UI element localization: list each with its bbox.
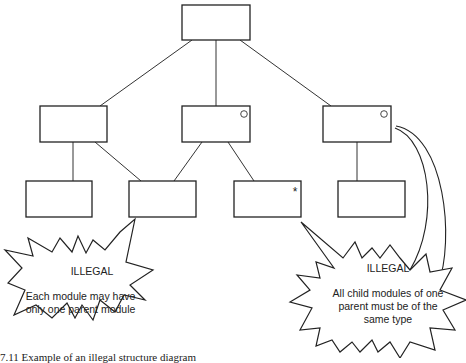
module-bottom-2 bbox=[129, 181, 196, 217]
callout-right-line1: All child modules of one bbox=[322, 287, 454, 300]
module-bottom-1 bbox=[26, 181, 92, 217]
callout-left-line1: Each module may have bbox=[18, 290, 143, 303]
callout-left-line2: only one parent module bbox=[18, 303, 143, 316]
callout-right-line2: parent must be of the bbox=[322, 300, 454, 313]
callout-left-heading: ILLEGAL bbox=[42, 265, 142, 278]
module-mid-left bbox=[40, 106, 107, 142]
callout-right-line3: same type bbox=[322, 313, 454, 326]
callout-right-heading: ILLEGAL bbox=[338, 262, 438, 275]
figure-caption: 7.11 Example of an illegal structure dia… bbox=[0, 351, 196, 363]
module-root bbox=[182, 5, 250, 40]
module-bottom-3 bbox=[234, 181, 301, 217]
iteration-asterisk-icon: * bbox=[293, 185, 298, 199]
module-bottom-4 bbox=[338, 181, 405, 217]
module-mid-center bbox=[182, 106, 250, 142]
module-mid-right bbox=[323, 106, 391, 142]
